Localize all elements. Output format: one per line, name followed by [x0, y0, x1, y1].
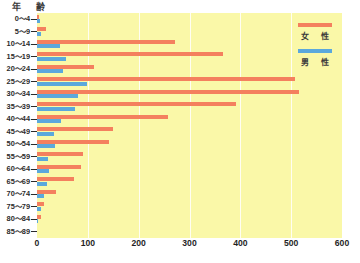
bar-female — [37, 52, 223, 56]
y-axis-ticks: 0～45～910～1415～1920～2425～2930～3435～3940～4… — [0, 13, 37, 238]
bar-row — [37, 138, 342, 151]
bar-female — [37, 190, 56, 194]
y-tick-label: 80～84 — [7, 213, 30, 226]
bar-female — [37, 140, 109, 144]
y-tick-label: 0～4 — [15, 13, 30, 26]
y-tick: 5～9 — [0, 26, 37, 39]
bar-male — [37, 194, 44, 198]
legend-swatch — [298, 23, 332, 27]
chart-root: 年 齢 0～45～910～1415～1920～2425～2930～3435～39… — [0, 0, 360, 263]
legend-swatch — [298, 49, 332, 53]
y-tick-mark — [31, 94, 37, 95]
bar-female — [37, 15, 39, 19]
y-tick: 30～34 — [0, 88, 37, 101]
bar-female — [37, 127, 113, 131]
y-tick-mark — [31, 194, 37, 195]
bar-female — [37, 65, 94, 69]
y-tick-label: 50～54 — [7, 138, 30, 151]
y-tick-label: 85～89 — [7, 226, 30, 239]
bar-female — [37, 102, 236, 106]
y-tick: 45～49 — [0, 126, 37, 139]
x-tick-label: 600 — [335, 238, 349, 248]
y-tick-mark — [31, 144, 37, 145]
y-tick-label: 15～19 — [7, 51, 30, 64]
y-tick: 70～74 — [0, 188, 37, 201]
bar-female — [37, 77, 295, 81]
y-tick: 35～39 — [0, 101, 37, 114]
bar-male — [37, 119, 61, 123]
y-tick-label: 25～29 — [7, 76, 30, 89]
gridline-600 — [342, 13, 343, 238]
y-tick-label: 35～39 — [7, 101, 30, 114]
y-tick: 25～29 — [0, 76, 37, 89]
bar-row — [37, 201, 342, 214]
y-tick-mark — [31, 81, 37, 82]
x-tick-label: 200 — [131, 238, 145, 248]
y-tick-mark — [31, 131, 37, 132]
figure-caption — [2, 254, 358, 263]
y-tick: 0～4 — [0, 13, 37, 26]
y-tick: 15～19 — [0, 51, 37, 64]
bar-male — [37, 94, 78, 98]
y-tick: 60～64 — [0, 163, 37, 176]
x-tick-label: 100 — [81, 238, 95, 248]
bar-male — [37, 169, 49, 173]
y-tick-label: 20～24 — [7, 63, 30, 76]
bar-female — [37, 90, 299, 94]
bar-row — [37, 126, 342, 139]
x-tick-label: 500 — [284, 238, 298, 248]
x-axis-ticks: 0100200300400500600 — [37, 238, 342, 252]
y-tick: 65～69 — [0, 176, 37, 189]
legend-label: 男 性 — [296, 56, 336, 67]
y-tick-mark — [31, 44, 37, 45]
x-tick-label: 400 — [233, 238, 247, 248]
bar-male — [37, 132, 54, 136]
y-tick-mark — [31, 106, 37, 107]
bar-male — [37, 32, 41, 36]
bar-male — [37, 107, 75, 111]
y-tick-mark — [31, 156, 37, 157]
bar-row — [37, 176, 342, 189]
y-tick-mark — [31, 19, 37, 20]
y-tick: 85～89 — [0, 226, 37, 239]
y-tick: 20～24 — [0, 63, 37, 76]
y-tick-label: 75～79 — [7, 201, 30, 214]
y-tick-label: 45～49 — [7, 126, 30, 139]
x-tick-label: 300 — [182, 238, 196, 248]
legend-label: 女 性 — [296, 30, 336, 41]
bar-female — [37, 202, 44, 206]
bar-male — [37, 207, 41, 211]
y-tick-mark — [31, 56, 37, 57]
bar-row — [37, 213, 342, 226]
y-tick-label: 10～14 — [7, 38, 30, 51]
bar-female — [37, 215, 41, 219]
y-tick-mark — [31, 169, 37, 170]
y-tick-label: 60～64 — [7, 163, 30, 176]
bar-female — [37, 27, 46, 31]
y-tick-label: 40～44 — [7, 113, 30, 126]
bar-female — [37, 165, 81, 169]
y-tick-label: 65～69 — [7, 176, 30, 189]
y-tick-mark — [31, 119, 37, 120]
bar-male — [37, 69, 63, 73]
y-tick: 50～54 — [0, 138, 37, 151]
bar-male — [37, 144, 55, 148]
bar-male — [37, 82, 87, 86]
age-axis-caption: 年 齢 — [12, 0, 48, 13]
bar-male — [37, 44, 60, 48]
bar-male — [37, 157, 48, 161]
y-tick-mark — [31, 31, 37, 32]
bar-female — [37, 152, 83, 156]
bar-male — [37, 57, 66, 61]
y-tick-mark — [31, 231, 37, 232]
bar-female — [37, 177, 74, 181]
legend: 女 性男 性 — [288, 13, 342, 69]
y-tick-mark — [31, 219, 37, 220]
bar-row — [37, 163, 342, 176]
y-tick-mark — [31, 181, 37, 182]
bar-row — [37, 113, 342, 126]
y-tick: 55～59 — [0, 151, 37, 164]
y-tick-label: 55～59 — [7, 151, 30, 164]
y-tick-label: 30～34 — [7, 88, 30, 101]
y-tick-label: 70～74 — [7, 188, 30, 201]
